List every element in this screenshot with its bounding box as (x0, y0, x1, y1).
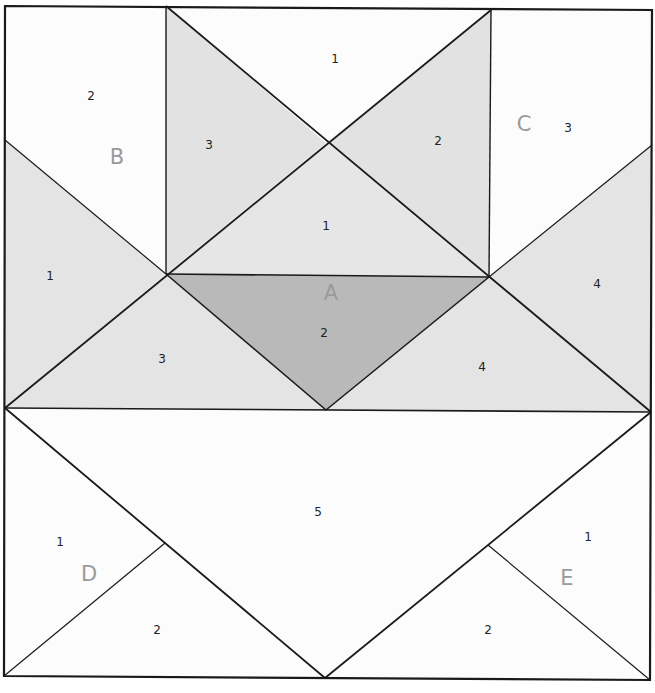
piece-number-e1: 1 (584, 530, 592, 544)
section-label-b: B (110, 145, 124, 169)
piece-number-b3: 3 (205, 138, 213, 152)
piece-number-c3: 3 (564, 121, 572, 135)
piece-number-b2: 2 (87, 89, 95, 103)
piece-number-b1: 1 (46, 269, 54, 283)
piece-number-a1: 1 (322, 219, 330, 233)
piece-number-c4: 4 (593, 277, 601, 291)
piece-number-a2: 2 (320, 326, 328, 340)
section-label-d: D (81, 562, 97, 586)
section-label-e: E (560, 566, 573, 590)
piece-number-a4: 4 (478, 360, 486, 374)
piece-number-c2: 2 (434, 134, 442, 148)
piece-number-c1: 1 (331, 52, 339, 66)
piece-number-e2: 2 (484, 623, 492, 637)
piece-number-d2: 2 (153, 623, 161, 637)
piece-number-d1: 1 (56, 535, 64, 549)
piece-number-a5: 5 (314, 505, 322, 519)
quilt-block-diagram: A B C D E 1 2 3 4 5 1 2 3 1 2 3 4 1 2 1 … (0, 0, 655, 693)
piece-number-a3: 3 (158, 352, 166, 366)
section-label-c: C (517, 112, 532, 136)
section-label-a: A (324, 281, 339, 305)
